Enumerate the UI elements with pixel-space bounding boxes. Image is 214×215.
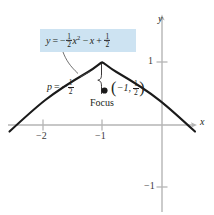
y-tick-label-minus-1: −1 <box>144 181 155 191</box>
equation-minus: − <box>60 35 66 46</box>
equation-text: y = − 1 2 x2 − x + 1 2 <box>46 32 111 48</box>
equation-linear-minus: − <box>80 35 90 46</box>
equation-exponent: 2 <box>77 34 80 41</box>
equation-coefficient-denominator: 2 <box>66 40 72 49</box>
p-equals: = <box>52 82 62 92</box>
focus-point-marker <box>101 87 107 93</box>
equation-equals: = <box>50 35 60 46</box>
equation-coefficient-fraction: 1 2 <box>66 32 72 48</box>
x-tick-label-minus-1: −1 <box>95 131 106 141</box>
p-value-fraction: 1 2 <box>68 79 74 95</box>
focus-caption: Focus <box>90 98 114 108</box>
x-axis-label: x <box>200 117 204 127</box>
equation-highlight-box: y = − 1 2 x2 − x + 1 2 <box>40 29 136 52</box>
equation-coefficient-numerator: 1 <box>66 32 72 40</box>
p-minus: − <box>62 82 68 92</box>
parabola-figure: y = − 1 2 x2 − x + 1 2 p = − 1 2 ( −1 <box>0 0 214 215</box>
equation-plus: + <box>94 35 104 46</box>
focus-coordinate-label: ( −1, 1 2 ) <box>111 80 145 96</box>
equation-constant-denominator: 2 <box>104 40 110 49</box>
focal-distance-brace <box>98 64 102 94</box>
x-tick-label-minus-2: −2 <box>36 131 47 141</box>
y-axis-label: y <box>158 14 162 24</box>
equation-constant-fraction: 1 2 <box>104 32 110 48</box>
focus-close-paren: ) <box>139 82 144 95</box>
focus-open-paren: ( <box>111 82 116 95</box>
equation-leader-line <box>63 52 78 74</box>
p-denominator: 2 <box>68 87 74 96</box>
p-label-leader-line <box>80 72 90 78</box>
focus-y-fraction: 1 2 <box>133 80 139 96</box>
focus-y-numerator: 1 <box>133 80 139 88</box>
focus-x-value: −1, <box>116 83 131 93</box>
focal-parameter-label: p = − 1 2 <box>47 79 74 95</box>
focus-y-denominator: 2 <box>133 88 139 97</box>
equation-constant-numerator: 1 <box>104 32 110 40</box>
y-tick-label-1: 1 <box>148 56 153 66</box>
p-numerator: 1 <box>68 79 74 87</box>
